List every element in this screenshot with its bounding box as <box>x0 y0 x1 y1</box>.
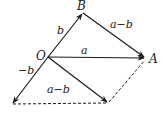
vector-label-b: b <box>57 24 64 37</box>
dashed-right-line <box>109 60 145 102</box>
dashed-bottom-line <box>13 103 106 104</box>
point-label-a: A <box>148 52 158 66</box>
vector-diagram: O B A b a a−b −b a−b <box>0 0 166 113</box>
point-label-b: B <box>76 0 86 13</box>
vector-b <box>48 14 82 57</box>
vector-a <box>48 57 144 58</box>
point-label-o: O <box>36 49 46 63</box>
vector-label-neg-b: −b <box>18 64 34 77</box>
vector-label-a-minus-b-bottom: a−b <box>47 83 70 96</box>
vector-label-a-minus-b-top: a−b <box>110 18 133 31</box>
vector-label-a: a <box>81 44 88 57</box>
